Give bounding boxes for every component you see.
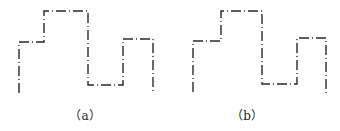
panel-b-caption: （b） (231, 106, 263, 123)
dash-dot-step-diagram (0, 0, 340, 131)
panel-a-caption: （a） (69, 106, 100, 123)
panel-b-step-waveform (193, 11, 326, 93)
panel-a-step-waveform (19, 11, 153, 93)
